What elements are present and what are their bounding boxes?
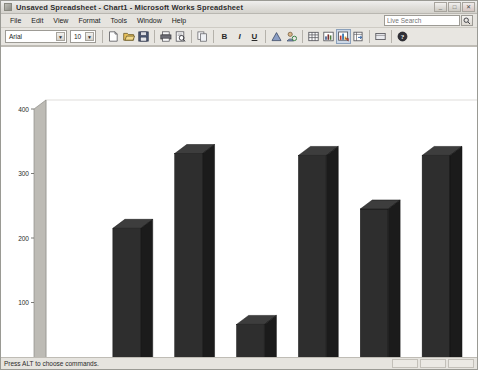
bar-front-face[interactable]: [237, 324, 265, 357]
new-icon[interactable]: [106, 29, 121, 44]
print-preview-icon[interactable]: [173, 29, 188, 44]
menu-item-file[interactable]: File: [5, 14, 26, 27]
window-controls: _ □ ✕: [434, 2, 475, 12]
status-panel: [448, 359, 474, 368]
menu-item-view[interactable]: View: [48, 14, 73, 27]
svg-text:?: ?: [401, 33, 405, 41]
font-name-value: Arial: [9, 33, 22, 40]
y-axis-tick-label: 400: [18, 106, 29, 113]
status-panel: [392, 359, 418, 368]
bar-side-face: [326, 146, 338, 357]
toolbar-separator: [154, 30, 155, 43]
copy-icon[interactable]: [195, 29, 210, 44]
underline-button[interactable]: U: [247, 29, 262, 44]
bar-group[interactable]: June: [422, 146, 462, 357]
bar-front-face[interactable]: [113, 228, 141, 357]
chart-client-area[interactable]: 0100200300400Stamp CollectionJanuaryFebr…: [1, 46, 477, 357]
toolbar-separator: [391, 30, 392, 43]
status-message: Press ALT to choose commands.: [4, 360, 99, 367]
help-icon[interactable]: ?: [395, 29, 410, 44]
easy-calc-icon[interactable]: [269, 29, 284, 44]
toolbar-separator: [213, 30, 214, 43]
status-panels: [392, 359, 474, 368]
toolbar-separator: [369, 30, 370, 43]
close-button[interactable]: ✕: [462, 2, 475, 12]
application-window: Unsaved Spreadsheet - Chart1 - Microsoft…: [0, 0, 478, 370]
menu-item-edit[interactable]: Edit: [26, 14, 48, 27]
y-axis-tick-label: 300: [18, 170, 29, 177]
toolbar: Arial ▼ 10 ▼: [1, 28, 477, 46]
menu-item-window[interactable]: Window: [132, 14, 167, 27]
y-axis-tick-label: 200: [18, 235, 29, 242]
menu-item-tools[interactable]: Tools: [106, 14, 132, 27]
bar-front-face[interactable]: [360, 209, 388, 357]
print-icon[interactable]: [158, 29, 173, 44]
menu-item-help[interactable]: Help: [167, 14, 191, 27]
chart-canvas: 0100200300400Stamp CollectionJanuaryFebr…: [1, 47, 477, 357]
y-axis-tick-label: 100: [18, 299, 29, 306]
bar-side-face: [388, 200, 400, 357]
save-icon[interactable]: [136, 29, 151, 44]
open-icon[interactable]: [121, 29, 136, 44]
chevron-down-icon[interactable]: ▼: [56, 32, 65, 41]
chart-type-icon[interactable]: [336, 29, 351, 44]
bar-front-face[interactable]: [298, 155, 326, 357]
menu-item-format[interactable]: Format: [73, 14, 105, 27]
y-axis-wall: [34, 100, 46, 357]
spreadsheet-view-icon[interactable]: [351, 29, 366, 44]
chevron-down-icon[interactable]: ▼: [85, 32, 94, 41]
bar-group[interactable]: May: [360, 200, 400, 357]
menu-bar: File Edit View Format Tools Window Help: [1, 14, 477, 28]
address-book-icon[interactable]: [284, 29, 299, 44]
spreadsheet-icon: [4, 3, 12, 11]
bar-side-face: [203, 145, 215, 357]
bar-front-face[interactable]: [422, 155, 450, 357]
search-area: [384, 15, 473, 26]
search-input[interactable]: [384, 15, 460, 26]
minimize-button[interactable]: _: [434, 2, 447, 12]
bar-group[interactable]: March: [237, 315, 277, 357]
italic-label: I: [238, 33, 240, 41]
maximize-button[interactable]: □: [448, 2, 461, 12]
bold-button[interactable]: B: [217, 29, 232, 44]
bar-group[interactable]: February: [175, 145, 215, 357]
toolbar-display-icon[interactable]: [373, 29, 388, 44]
status-bar: Press ALT to choose commands.: [1, 357, 477, 369]
toolbar-separator: [302, 30, 303, 43]
search-icon[interactable]: [461, 15, 473, 26]
font-size-value: 10: [74, 33, 81, 40]
bar-side-face: [450, 146, 462, 357]
toolbar-separator: [102, 30, 103, 43]
bar-front-face[interactable]: [175, 154, 203, 357]
underline-label: U: [252, 33, 258, 41]
font-name-combo[interactable]: Arial ▼: [5, 30, 67, 43]
insert-chart-icon[interactable]: [321, 29, 336, 44]
font-size-combo[interactable]: 10 ▼: [70, 30, 96, 43]
toolbar-separator: [191, 30, 192, 43]
title-bar[interactable]: Unsaved Spreadsheet - Chart1 - Microsoft…: [1, 1, 477, 14]
toolbar-separator: [265, 30, 266, 43]
italic-button[interactable]: I: [232, 29, 247, 44]
insert-table-icon[interactable]: [306, 29, 321, 44]
bold-label: B: [222, 33, 228, 41]
bar-side-face: [141, 219, 153, 357]
bar-group[interactable]: January: [113, 219, 153, 357]
bar-group[interactable]: April: [298, 146, 338, 357]
bar-chart: 0100200300400Stamp CollectionJanuaryFebr…: [1, 47, 477, 357]
status-panel: [420, 359, 446, 368]
window-title: Unsaved Spreadsheet - Chart1 - Microsoft…: [16, 3, 243, 12]
